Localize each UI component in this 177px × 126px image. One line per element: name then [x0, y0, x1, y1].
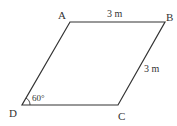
vertex-label-a: A	[58, 9, 66, 21]
angle-d-label: 60°	[32, 93, 45, 103]
side-ab-length: 3 m	[107, 8, 123, 19]
vertex-label-d: D	[9, 107, 17, 119]
parallelogram-diagram: A B C D 3 m 3 m 60°	[0, 0, 177, 126]
vertex-label-b: B	[166, 11, 173, 23]
diagram-svg: A B C D 3 m 3 m 60°	[0, 0, 177, 126]
angle-arc-icon	[26, 98, 30, 105]
vertex-label-c: C	[118, 110, 125, 122]
side-bc-length: 3 m	[144, 63, 160, 74]
